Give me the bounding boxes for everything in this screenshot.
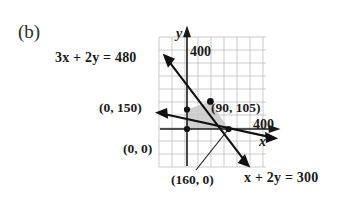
vertex-label-0-150: (0, 150) [99, 101, 142, 115]
vertex-label-160-0: (160, 0) [171, 173, 214, 187]
equation-label-x-2y-300: x + 2y = 300 [244, 171, 318, 185]
y-axis-label: y [176, 27, 182, 41]
leader-lines [196, 131, 227, 170]
vertex-label-origin: (0, 0) [123, 142, 152, 156]
equation-label-3x-2y-480: 3x + 2y = 480 [55, 51, 137, 65]
y-axis-tick-400: 400 [190, 45, 211, 59]
leader-160-0 [196, 131, 227, 170]
vertex-0-150 [184, 106, 190, 112]
vertex-origin [184, 126, 190, 132]
x-axis-tick-400: 400 [253, 118, 274, 132]
x-axis-label: x [259, 135, 266, 149]
vertex-label-90-105: (90, 105) [211, 101, 261, 115]
panel-letter: (b) [18, 22, 40, 41]
